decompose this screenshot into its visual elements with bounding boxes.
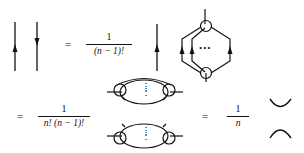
denominator: n bbox=[227, 117, 249, 129]
numerator: 1 bbox=[38, 104, 90, 116]
denominator: (n − 1)! bbox=[86, 45, 132, 57]
denominator: n! (n − 1)! bbox=[38, 117, 90, 129]
equals-sign-row1: = bbox=[65, 38, 71, 50]
equals-sign-row2: = bbox=[17, 110, 23, 122]
coefficient-row2: 1 n! (n − 1)! bbox=[38, 104, 90, 129]
diagram-graphics bbox=[0, 0, 304, 153]
antiparallel-lines-icon bbox=[13, 22, 40, 71]
numerator: 1 bbox=[86, 32, 132, 44]
coefficient-row1: 1 (n − 1)! bbox=[86, 32, 132, 57]
vertical-dots-bottom: ⋮⋮ bbox=[141, 128, 147, 138]
equals-sign-row3: = bbox=[202, 110, 208, 122]
cup-cap-arcs-icon bbox=[270, 99, 291, 138]
coefficient-row3: 1 n bbox=[227, 104, 249, 129]
numerator: 1 bbox=[227, 104, 249, 116]
vertical-dots-top: ⋮⋮ bbox=[141, 84, 147, 94]
horizontal-dots: ••• bbox=[199, 43, 211, 53]
up-arrow-line-icon bbox=[155, 24, 160, 71]
